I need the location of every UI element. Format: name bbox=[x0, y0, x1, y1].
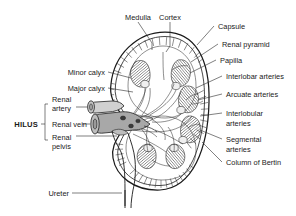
kidney-diagram: Medulla Cortex Capsule Renal pyramid Pap… bbox=[0, 0, 296, 216]
label-minor-calyx: Minor calyx bbox=[68, 68, 106, 77]
label-ureter: Ureter bbox=[48, 189, 69, 198]
label-major-calyx: Major calyx bbox=[68, 84, 106, 93]
label-medulla: Medulla bbox=[125, 13, 152, 22]
label-renal-artery-line2: artery bbox=[52, 104, 71, 113]
label-interlobular-arteries: Interlobular bbox=[226, 109, 264, 118]
label-interlobar-arteries: Interlobar arteries bbox=[226, 72, 284, 81]
leader-arcuate bbox=[198, 94, 222, 100]
label-capsule: Capsule bbox=[218, 22, 245, 31]
kidney-figure-svg: Medulla Cortex Capsule Renal pyramid Pap… bbox=[0, 0, 296, 216]
leader-capsule bbox=[197, 26, 214, 45]
label-texts: Medulla Cortex Capsule Renal pyramid Pap… bbox=[14, 13, 284, 198]
label-column-of-bertin: Column of Bertin bbox=[226, 158, 281, 167]
label-renal-pelvis: Renal bbox=[52, 133, 72, 142]
label-hilus: HILUS bbox=[14, 120, 38, 129]
ureter bbox=[125, 190, 133, 208]
label-segmental-arteries: Segmental bbox=[226, 135, 262, 144]
hilus-bracket bbox=[41, 104, 48, 140]
leader-column-bertin bbox=[202, 142, 222, 162]
renal-capsule-outline bbox=[111, 32, 209, 190]
label-renal-artery: Renal bbox=[52, 95, 72, 104]
label-arcuate-arteries: Arcuate arteries bbox=[226, 90, 278, 99]
renal-pyramid bbox=[137, 144, 156, 168]
leader-interlobular bbox=[200, 113, 222, 116]
leader-papilla bbox=[190, 60, 216, 73]
label-segmental-arteries-line2: arteries bbox=[226, 145, 251, 154]
label-cortex: Cortex bbox=[159, 13, 181, 22]
label-renal-pyramid: Renal pyramid bbox=[222, 40, 270, 49]
renal-pyramid bbox=[171, 60, 190, 90]
kidney-body bbox=[106, 32, 209, 190]
renal-pyramids bbox=[130, 60, 200, 169]
renal-pyramid bbox=[166, 144, 185, 168]
label-interlobular-arteries-line2: arteries bbox=[226, 119, 251, 128]
label-papilla: Papilla bbox=[220, 56, 243, 65]
renal-pyramid bbox=[130, 60, 150, 87]
label-renal-vein: Renal vein bbox=[52, 120, 87, 129]
leader-segmental bbox=[200, 130, 222, 139]
label-renal-pelvis-line2: pelvis bbox=[52, 142, 71, 151]
renal-pyramid bbox=[177, 86, 199, 114]
leader-major-calyx bbox=[108, 88, 133, 92]
